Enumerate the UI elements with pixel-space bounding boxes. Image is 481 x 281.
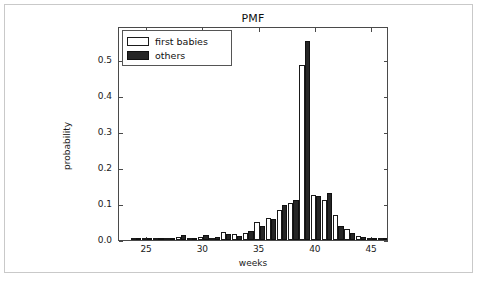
x-axis-label: weeks: [118, 258, 388, 268]
legend-swatch-first-babies: [127, 37, 149, 46]
y-tick-label: 0.0: [78, 235, 112, 245]
bar: [215, 237, 220, 240]
x-tick-label: 25: [131, 244, 161, 254]
legend-label: first babies: [155, 36, 208, 47]
legend-item: others: [127, 48, 227, 62]
bar: [203, 235, 208, 240]
bar: [136, 238, 141, 240]
legend-item: first babies: [127, 34, 227, 48]
y-tick-label: 0.3: [78, 127, 112, 137]
bar: [350, 233, 355, 240]
y-tick-mark: [119, 241, 123, 242]
y-tick-label: 0.5: [78, 55, 112, 65]
bar: [293, 200, 298, 240]
bar: [248, 231, 253, 240]
chart-legend: first babies others: [122, 30, 232, 66]
bar: [327, 193, 332, 240]
bar: [181, 235, 186, 240]
bar: [226, 234, 231, 240]
legend-label: others: [155, 50, 185, 61]
y-tick-label: 0.2: [78, 163, 112, 173]
bar: [316, 196, 321, 240]
bar: [372, 238, 377, 240]
screenshot-root: PMF probability weeks 0.00.10.20.30.40.5…: [0, 0, 481, 281]
bar: [170, 238, 175, 240]
page-title: PMF: [118, 12, 388, 25]
x-tick-label: 40: [300, 244, 330, 254]
legend-swatch-others: [127, 51, 149, 60]
y-tick-label: 0.1: [78, 199, 112, 209]
bar: [282, 205, 287, 240]
x-tick-label: 35: [244, 244, 274, 254]
bar: [383, 238, 387, 240]
y-tick-mark: [384, 241, 388, 242]
bar: [192, 238, 197, 240]
bar: [158, 238, 163, 240]
x-tick-label: 45: [356, 244, 386, 254]
y-axis-label: probability: [62, 122, 72, 170]
bar: [260, 226, 265, 240]
y-tick-label: 0.4: [78, 91, 112, 101]
bar: [361, 237, 366, 240]
bar: [305, 41, 310, 240]
x-tick-label: 30: [187, 244, 217, 254]
bar: [237, 236, 242, 240]
bar: [147, 238, 152, 240]
chart-figure: PMF probability weeks 0.00.10.20.30.40.5…: [0, 0, 481, 281]
bar: [338, 226, 343, 240]
bar: [271, 219, 276, 240]
